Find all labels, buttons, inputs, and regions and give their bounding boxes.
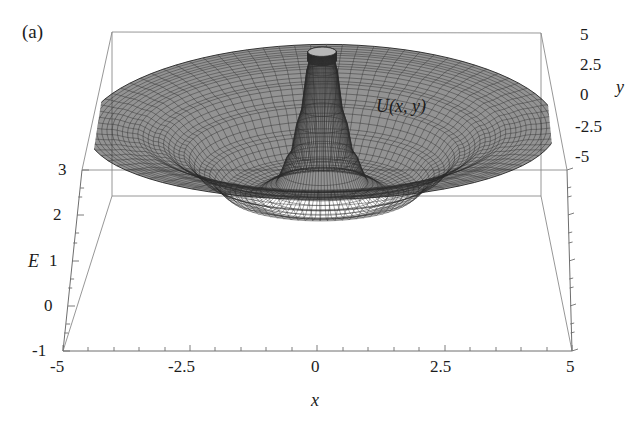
z-tick-neg1: -1	[32, 342, 46, 359]
x-tick-neg2-5: -2.5	[168, 358, 195, 375]
x-tick-2-5: 2.5	[430, 358, 451, 375]
z-tick-2: 2	[53, 206, 62, 223]
z-tick-3: 3	[58, 161, 67, 178]
y-tick-5: 5	[580, 26, 589, 43]
x-axis-label: x	[311, 391, 319, 409]
panel-label: (a)	[22, 22, 43, 41]
z-tick-0: 0	[44, 297, 53, 314]
z-tick-1: 1	[49, 252, 58, 269]
x-tick-5: 5	[566, 358, 575, 375]
x-tick-neg5: -5	[50, 358, 64, 375]
z-axis-ticks	[63, 170, 89, 351]
x-tick-0: 0	[311, 358, 320, 375]
y-tick-2-5: 2.5	[580, 56, 601, 73]
y-axis-label: y	[616, 78, 624, 96]
potential-surface-mesh	[86, 44, 557, 221]
x-axis-ticks	[63, 345, 572, 351]
y-axis-ticks	[567, 168, 578, 351]
y-tick-neg5: -5	[575, 148, 589, 165]
figure-panel-a: (a) U(x, y) E 3 2 1 0 -1 -5 -2.5 0 2.5 5…	[0, 0, 638, 438]
y-tick-neg2-5: -2.5	[575, 118, 602, 135]
y-tick-0: 0	[580, 86, 589, 103]
z-axis-label: E	[28, 252, 39, 270]
surface-annotation: U(x, y)	[376, 97, 426, 115]
